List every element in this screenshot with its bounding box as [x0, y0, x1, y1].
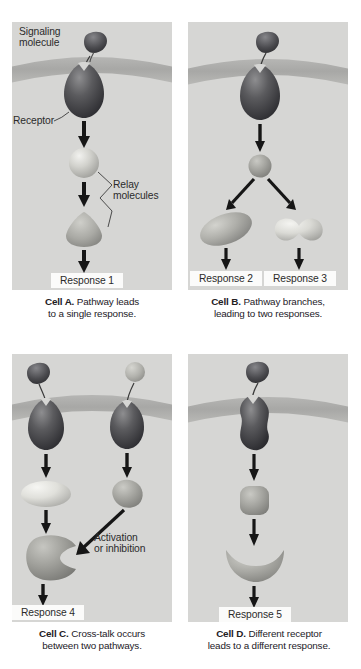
caption-d-rest: Different receptor	[246, 628, 322, 639]
crosstalk-label: Activation or inhibition	[94, 532, 145, 555]
panel-d-graphics	[188, 354, 348, 622]
signaling-molecule-shape	[246, 362, 269, 383]
relay-molecule-target-shape	[26, 535, 76, 580]
panel-a-graphics	[12, 22, 172, 290]
relay-molecule-1-shape	[69, 148, 99, 178]
caption-a-rest: Pathway leads	[74, 296, 139, 307]
arrow-relay2-to-response	[249, 586, 259, 608]
panel-cell-a: Signaling molecule Receptor Relay molecu…	[12, 22, 172, 290]
caption-d-letter: Cell D.	[216, 628, 246, 639]
panel-cell-b: Response 2 Response 3	[188, 22, 348, 290]
caption-b-rest: Pathway branches,	[241, 296, 325, 307]
relay-molecule-1-shape	[249, 155, 272, 178]
response-2-box[interactable]: Response 2	[190, 271, 262, 286]
relay-molecule-2-shape	[226, 550, 284, 582]
arrow-receptor-to-relay1	[78, 121, 90, 148]
arrow-relay2-to-response	[78, 250, 90, 273]
signaling-molecule-shape	[256, 32, 279, 53]
relay-molecule-right-shape	[112, 480, 142, 508]
caption-cell-d: Cell D. Different receptor leads to a di…	[183, 628, 355, 652]
caption-c-letter: Cell C.	[39, 628, 69, 639]
caption-a-letter: Cell A.	[45, 296, 74, 307]
signaling-molecule-label: Signaling molecule	[19, 26, 60, 49]
arrow-relay1-to-relay2	[249, 519, 259, 546]
panel-cell-c: Activation or inhibition Response 4	[12, 354, 172, 622]
arrow-receptor-to-relay1	[255, 124, 265, 152]
relay-molecule-2-shape	[66, 212, 102, 247]
arrow-relay-left-to-target	[41, 510, 51, 534]
response-1-box[interactable]: Response 1	[51, 273, 123, 288]
response-5-box[interactable]: Response 5	[219, 607, 291, 622]
caption-a-line2: to a single response.	[12, 308, 172, 320]
relay-molecule-1-shape	[240, 486, 269, 515]
panel-b-graphics	[188, 22, 348, 290]
caption-c-line2: between two pathways.	[12, 640, 172, 652]
response-4-box[interactable]: Response 4	[12, 605, 84, 620]
arrow-right-to-response3	[294, 248, 304, 270]
arrow-receptor-to-relay1	[249, 454, 259, 481]
caption-cell-a: Cell A. Pathway leads to a single respon…	[12, 296, 172, 320]
caption-b-line2: leading to two responses.	[185, 308, 351, 320]
relay-molecule-left-shape	[21, 481, 71, 507]
arrow-receptor-right-to-relay	[122, 453, 132, 478]
relay-molecule-left-shape	[195, 206, 256, 253]
arrow-branch-right	[268, 179, 296, 210]
arrow-receptor-left-to-relay	[41, 454, 51, 478]
signaling-pathways-figure: Signaling molecule Receptor Relay molecu…	[0, 0, 361, 669]
response-3-box[interactable]: Response 3	[264, 271, 336, 286]
panel-cell-d: Response 5	[188, 354, 348, 622]
relay-leader	[98, 172, 112, 227]
caption-cell-b: Cell B. Pathway branches, leading to two…	[185, 296, 351, 320]
arrow-left-to-response2	[221, 248, 231, 270]
arrow-target-to-response4	[38, 584, 48, 606]
caption-d-line2: leads to a different response.	[183, 640, 355, 652]
relay-molecules-label: Relay molecules	[113, 179, 158, 202]
receptor-shape	[240, 395, 269, 450]
receptor-label: Receptor	[13, 115, 54, 126]
signaling-molecule-left-shape	[27, 363, 50, 384]
caption-c-rest: Cross-talk occurs	[69, 628, 145, 639]
caption-b-letter: Cell B.	[211, 296, 241, 307]
arrow-branch-left	[226, 179, 254, 210]
signaling-molecule-right-shape	[125, 362, 145, 382]
receptor-leader	[54, 112, 69, 121]
arrow-relay1-to-relay2	[78, 182, 90, 207]
panel-c-graphics	[12, 354, 172, 622]
caption-cell-c: Cell C. Cross-talk occurs between two pa…	[12, 628, 172, 652]
relay-molecule-right-shape	[275, 218, 323, 240]
